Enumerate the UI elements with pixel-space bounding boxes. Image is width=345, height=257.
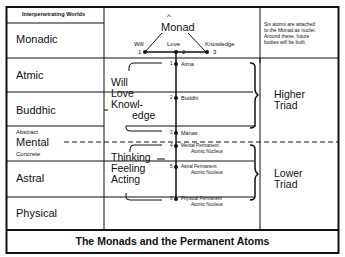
column-header: Interpenetrating Worlds <box>22 12 85 18</box>
higher-triad-line2: Triad <box>274 100 298 111</box>
knowledge-dot <box>205 50 209 54</box>
will-dot <box>143 50 147 54</box>
atom-dot-4 <box>174 144 178 148</box>
atom-number-4: 4 <box>170 144 173 149</box>
world-mental: Mental <box>16 137 49 148</box>
world-mental-concrete: Concrete <box>16 151 40 157</box>
monad-number-2: 2 <box>182 49 185 55</box>
atom-dot-6 <box>174 197 178 201</box>
world-astral: Astral <box>16 173 44 184</box>
atom-label-astral-2: Atomic Nucleus <box>191 171 223 176</box>
monad-line-knowledge <box>188 33 206 52</box>
atom-label-physical-1: Physical Permanent <box>181 197 222 202</box>
atom-label-physical-2: Atomic Nucleus <box>191 203 223 208</box>
monad-aspect-love: Love <box>167 41 180 47</box>
lower-triad-line2: Triad <box>274 179 298 190</box>
atom-number-6: 6 <box>170 197 173 202</box>
diagram-title: The Monads and the Permanent Atoms <box>6 236 339 247</box>
higher-triad-brace <box>250 63 258 128</box>
world-buddhic: Buddhic <box>16 105 56 116</box>
atom-label-manas: Manas <box>181 131 198 137</box>
atom-number-2: 2 <box>170 96 173 101</box>
higher-quality-edge: edge <box>132 110 155 121</box>
atom-dot-3 <box>174 131 178 135</box>
atom-dot-1 <box>174 62 178 66</box>
world-mental-abstract: Abstract <box>16 129 38 135</box>
monad-aspect-knowledge: Knowledge <box>205 41 235 47</box>
monad-label: Monad <box>161 22 195 33</box>
atom-number-3: 3 <box>170 131 173 136</box>
world-atmic: Atmic <box>16 70 44 81</box>
world-monadic: Monadic <box>16 34 58 45</box>
atom-number-1: 1 <box>170 62 173 67</box>
atom-label-atma: Atma <box>181 62 194 68</box>
world-physical: Physical <box>16 208 57 219</box>
atom-dot-2 <box>174 96 178 100</box>
monad-aspect-will: Will <box>134 41 144 47</box>
lower-triad-brace <box>250 145 258 200</box>
atom-number-5: 5 <box>170 165 173 170</box>
monad-line-will <box>145 33 162 52</box>
atom-dot-5 <box>174 165 178 169</box>
lower-quality-acting: Acting <box>111 174 140 185</box>
monad-number-3: 3 <box>213 49 216 55</box>
atom-label-astral-1: Astral Permanent <box>181 165 217 170</box>
atom-label-mental-2: Atomic Nucleus <box>191 150 223 155</box>
monad-number-1: 1 <box>138 49 141 55</box>
note-line-4: bodies will be built. <box>264 40 306 45</box>
monad-caret-icon: ^ <box>167 13 171 21</box>
atom-label-mental-1: Mental Permanent <box>181 144 219 149</box>
atom-label-buddhi: Buddhi <box>181 96 198 102</box>
